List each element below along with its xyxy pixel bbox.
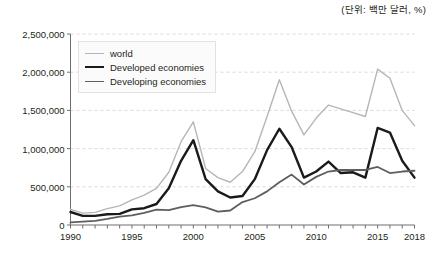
legend-swatch-icon bbox=[85, 81, 104, 82]
plot-area bbox=[0, 0, 434, 257]
x-axis-tick-label: 2005 bbox=[244, 231, 265, 242]
legend-swatch-icon bbox=[85, 53, 104, 54]
fdi-line-chart: (단위: 백만 달러, %) 0500,0001,000,0001,500,00… bbox=[0, 0, 434, 257]
x-axis-tick-label: 2000 bbox=[183, 231, 204, 242]
legend-label: world bbox=[110, 48, 133, 59]
legend-label: Developed economies bbox=[110, 62, 204, 73]
legend-item: Developing economies bbox=[85, 74, 206, 88]
legend-item: Developed economies bbox=[85, 60, 206, 74]
chart-legend: worldDeveloped economiesDeveloping econo… bbox=[78, 41, 216, 93]
y-axis-tick-label: 500,000 bbox=[30, 181, 64, 192]
x-axis-tick-label: 1990 bbox=[60, 231, 81, 242]
legend-item: world bbox=[85, 46, 206, 60]
y-axis-tick-label: 2,000,000 bbox=[22, 67, 64, 78]
x-axis-tick-label: 2015 bbox=[367, 231, 388, 242]
x-axis-tick-label: 2018 bbox=[404, 231, 425, 242]
y-axis-tick-label: 1,500,000 bbox=[22, 105, 64, 116]
legend-swatch-icon bbox=[85, 66, 104, 68]
x-axis-tick-label: 2010 bbox=[306, 231, 327, 242]
y-axis-tick-label: 2,500,000 bbox=[22, 29, 64, 40]
legend-label: Developing economies bbox=[110, 76, 206, 87]
x-axis-tick-label: 1995 bbox=[121, 231, 142, 242]
y-axis-tick-label: 0 bbox=[59, 220, 64, 231]
y-axis-tick-label: 1,000,000 bbox=[22, 143, 64, 154]
